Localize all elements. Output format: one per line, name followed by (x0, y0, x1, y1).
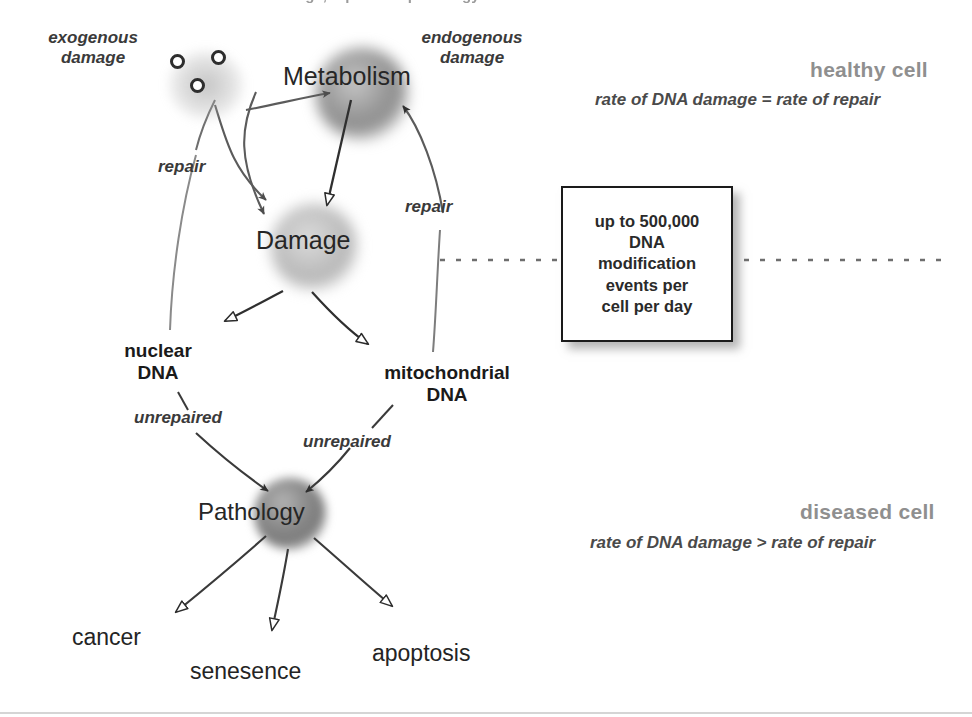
nuclear-dna-label: nuclear DNA (108, 340, 208, 385)
mitochondrial-dna-line2: DNA (372, 384, 522, 406)
nuclear-dna-line1: nuclear (108, 340, 208, 362)
cropped-title-text: DNA damage, repair and pathology (230, 0, 480, 3)
mitochondrial-dna-line1: mitochondrial (372, 362, 522, 384)
healthy-cell-title: healthy cell (810, 58, 928, 83)
repair-right-label: repair (405, 197, 452, 217)
particle-ring-icon (170, 54, 185, 69)
pathology-label: Pathology (198, 498, 305, 526)
exogenous-damage-line1: exogenous (28, 28, 158, 48)
exogenous-damage-line2: damage (28, 48, 158, 68)
endogenous-damage-line1: endogenous (404, 28, 540, 48)
outcome-apoptosis-label: apoptosis (372, 640, 470, 667)
unrepaired-nuclear-label: unrepaired (134, 408, 222, 428)
unrepaired-mitochondrial-label: unrepaired (303, 432, 391, 452)
bottom-divider-rule (0, 712, 972, 714)
diseased-cell-title: diseased cell (800, 500, 935, 525)
damage-label: Damage (256, 226, 351, 256)
callout-box: up to 500,000 DNA modification events pe… (561, 186, 733, 342)
particle-ring-icon (211, 50, 226, 65)
endogenous-damage-label: endogenous damage (404, 28, 540, 68)
endogenous-damage-line2: damage (404, 48, 540, 68)
healthy-cell-subtitle: rate of DNA damage = rate of repair (595, 90, 880, 110)
nuclear-dna-line2: DNA (108, 362, 208, 384)
diseased-cell-subtitle: rate of DNA damage > rate of repair (590, 533, 875, 553)
metabolism-label: Metabolism (283, 62, 411, 92)
diagram-canvas: DNA damage, repair and pathology (0, 0, 972, 717)
cropped-title-remnant: DNA damage, repair and pathology (0, 0, 972, 6)
exogenous-particle-cluster (158, 42, 254, 128)
exogenous-damage-label: exogenous damage (28, 28, 158, 68)
outcome-cancer-label: cancer (72, 624, 141, 651)
outcome-senesence-label: senesence (190, 658, 301, 685)
repair-left-label: repair (158, 157, 205, 177)
callout-text: up to 500,000 DNA modification events pe… (595, 211, 700, 317)
particle-ring-icon (190, 78, 205, 93)
mitochondrial-dna-label: mitochondrial DNA (372, 362, 522, 407)
